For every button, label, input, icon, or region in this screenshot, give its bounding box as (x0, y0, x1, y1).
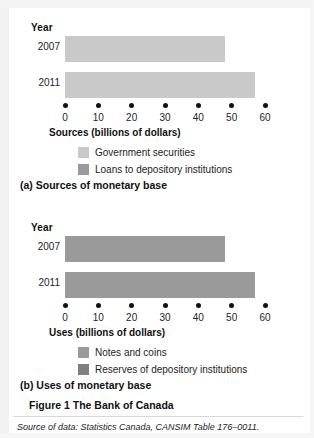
x-tick-dot-50 (229, 103, 234, 108)
x-tick-label-60: 60 (253, 112, 277, 123)
x-tick-dot-20 (129, 103, 134, 108)
x-axis-tick-labels-b: 0102030405060 (0, 312, 314, 320)
panel-caption-a: (a) Sources of monetary base (20, 179, 167, 191)
x-tick-dot-60 (263, 303, 268, 308)
bar-2007-b (65, 236, 225, 262)
axis-label-year-b: Year (31, 222, 53, 233)
x-tick-dot-60 (263, 103, 268, 108)
x-tick-dot-10 (96, 303, 101, 308)
x-tick-dot-30 (163, 103, 168, 108)
bar-2011-b (65, 272, 255, 298)
x-tick-label-0: 0 (53, 312, 77, 323)
x-tick-label-50: 50 (220, 112, 244, 123)
x-tick-label-30: 30 (153, 312, 177, 323)
x-tick-label-40: 40 (186, 312, 210, 323)
x-tick-dot-0 (63, 103, 68, 108)
x-tick-dot-0 (63, 303, 68, 308)
bar-2007-a (65, 36, 225, 62)
x-tick-dot-30 (163, 303, 168, 308)
x-tick-dot-20 (129, 303, 134, 308)
figure-page: Year 2007 2011 0102030405060 Sources (bi… (0, 0, 314, 438)
x-tick-dot-40 (196, 103, 201, 108)
x-tick-label-40: 40 (186, 112, 210, 123)
panel-caption-b: (b) Uses of monetary base (20, 379, 151, 391)
page-edge-bottom (0, 433, 314, 438)
x-tick-label-0: 0 (53, 112, 77, 123)
x-tick-label-30: 30 (153, 112, 177, 123)
category-label-2011-a: 2011 (26, 77, 60, 88)
x-tick-dot-40 (196, 303, 201, 308)
chart-panel-b: Year 2007 2011 0102030405060 Uses (billi… (0, 222, 314, 372)
x-tick-label-50: 50 (220, 312, 244, 323)
source-note: Source of data: Statistics Canada, CANSI… (17, 422, 259, 432)
category-label-2007-a: 2007 (26, 41, 60, 52)
axis-label-year-a: Year (31, 22, 53, 33)
legend-swatch-icon (78, 364, 89, 375)
category-label-2011-b: 2011 (26, 277, 60, 288)
figure-caption: Figure 1 The Bank of Canada (29, 399, 174, 411)
legend-label: Loans to depository institutions (95, 163, 232, 176)
x-axis-ticks-b (0, 303, 314, 311)
x-tick-label-20: 20 (120, 312, 144, 323)
chart-panel-a: Year 2007 2011 0102030405060 Sources (bi… (0, 22, 314, 172)
category-label-2007-b: 2007 (26, 241, 60, 252)
x-axis-title-a: Sources (billions of dollars) (49, 127, 181, 138)
x-axis-tick-labels-a: 0102030405060 (0, 112, 314, 120)
x-tick-label-60: 60 (253, 312, 277, 323)
legend-swatch-icon (78, 164, 89, 175)
legend-label: Government securities (95, 146, 195, 159)
page-edge-top (0, 0, 314, 8)
x-tick-dot-10 (96, 103, 101, 108)
legend-label: Reserves of depository institutions (95, 363, 247, 376)
x-axis-title-b: Uses (billions of dollars) (49, 327, 165, 338)
x-tick-label-20: 20 (120, 112, 144, 123)
x-tick-label-10: 10 (86, 112, 110, 123)
legend-label: Notes and coins (95, 346, 167, 359)
legend-swatch-icon (78, 347, 89, 358)
x-axis-ticks-a (0, 103, 314, 111)
legend-swatch-icon (78, 147, 89, 158)
x-tick-label-10: 10 (86, 312, 110, 323)
bar-2011-a (65, 72, 255, 98)
x-tick-dot-50 (229, 303, 234, 308)
source-divider (13, 416, 303, 417)
